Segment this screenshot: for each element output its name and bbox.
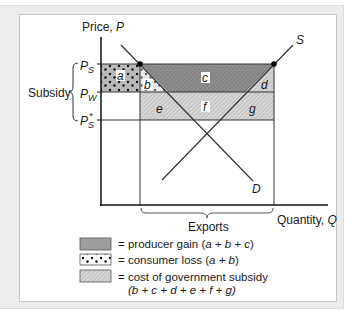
export-subsidy-diagram: a b c d e f g S D Price, P Quantity, Q P… bbox=[0, 0, 358, 324]
area-label-g: g bbox=[249, 102, 256, 116]
ps-star-label: PS* bbox=[80, 111, 94, 130]
supply-point-ps bbox=[271, 61, 277, 67]
ps-label: PS bbox=[80, 59, 94, 75]
subsidy-label: Subsidy bbox=[28, 86, 71, 100]
legend-subsidy-text: = cost of government subsidy bbox=[118, 271, 268, 283]
exports-label: Exports bbox=[188, 220, 229, 234]
demand-label: D bbox=[252, 182, 261, 196]
area-label-e: e bbox=[156, 102, 163, 116]
exports-brace bbox=[141, 208, 273, 218]
legend-swatch-consumer bbox=[80, 254, 111, 265]
legend-subsidy-formula: (b + c + d + e + f + g) bbox=[128, 284, 236, 296]
x-axis-label: Quantity, Q bbox=[277, 213, 337, 227]
legend-swatch-producer bbox=[80, 238, 111, 250]
area-label-a: a bbox=[117, 69, 124, 83]
legend-swatch-subsidy bbox=[80, 270, 111, 282]
area-label-b: b bbox=[144, 78, 151, 92]
y-axis-label: Price, P bbox=[82, 20, 124, 34]
supply-label: S bbox=[296, 33, 304, 47]
area-label-c: c bbox=[202, 71, 208, 85]
legend-consumer-text: = consumer loss (a + b) bbox=[118, 254, 239, 266]
pw-label: PW bbox=[80, 87, 98, 103]
legend-producer-text: = producer gain (a + b + c) bbox=[118, 238, 254, 250]
demand-point-ps bbox=[137, 61, 143, 67]
area-label-d: d bbox=[261, 78, 268, 92]
